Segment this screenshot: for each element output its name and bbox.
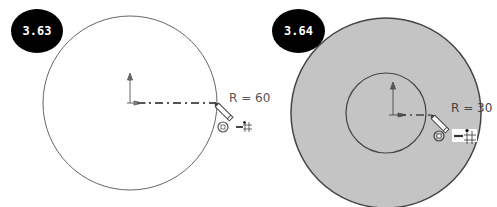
horizontal-grid-snap-icon bbox=[236, 121, 252, 132]
horizontal-grid-snap-icon bbox=[452, 129, 477, 144]
concentric-target-icon bbox=[434, 131, 444, 141]
badge-label: 3.63 bbox=[23, 24, 52, 38]
figure-number-badge: 3.64 bbox=[272, 9, 325, 53]
figure-number-badge: 3.63 bbox=[11, 9, 63, 53]
inner-circle bbox=[346, 73, 426, 153]
figure-stage: 3.63 3.64 R = 60 R = 30 bbox=[0, 0, 497, 207]
figure-3-63 bbox=[43, 16, 252, 190]
badge-label: 3.64 bbox=[284, 24, 313, 38]
radius-dimension-label: R = 60 bbox=[229, 91, 270, 105]
radius-dimension-label: R = 30 bbox=[451, 101, 492, 115]
concentric-target-icon bbox=[218, 122, 228, 132]
